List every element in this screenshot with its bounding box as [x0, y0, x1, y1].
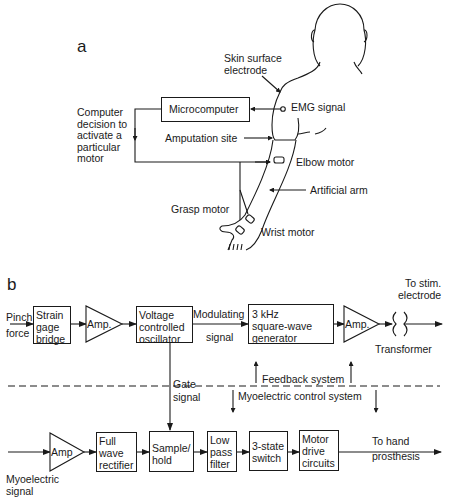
sample-hold-label: Sample/ hold — [152, 442, 191, 466]
amp1-label: Amp. — [87, 318, 112, 330]
gate-signal-label: Gate signal — [173, 378, 200, 404]
wrist-motor-label: Wrist motor — [261, 226, 314, 238]
full-wave-box: Full wave rectifier — [96, 432, 137, 472]
sample-hold-box: Sample/ hold — [149, 431, 194, 472]
strain-gage-box: Strain gage bridge — [33, 306, 71, 344]
square-wave-box: 3 kHz square-wave generator — [248, 304, 334, 344]
transformer-coil-left — [393, 312, 396, 336]
computer-decision-label: Computer decision to activate a particul… — [77, 107, 127, 165]
transformer-label: Transformer — [375, 343, 432, 355]
amp3-label: Amp — [51, 446, 73, 458]
vco-label: Voltage controlled oscillator — [139, 309, 185, 345]
modulating-label: Modulating — [193, 308, 244, 320]
stump-crease — [298, 132, 310, 134]
elbow-motor-symbol — [274, 157, 284, 163]
grasp-motor-symbol — [245, 214, 255, 224]
head-outline — [313, 4, 365, 66]
three-state-box: 3-state switch — [249, 431, 288, 471]
neck-left — [280, 62, 320, 92]
myoelectric-signal-label: Myoelectric signal — [6, 473, 59, 497]
low-pass-label: Low pass filter — [210, 434, 232, 470]
amputation-site-label: Amputation site — [165, 132, 237, 144]
panel-a-label: a — [77, 38, 86, 56]
strain-gage-label: Strain gage bridge — [36, 309, 65, 345]
chest-mark — [315, 128, 326, 134]
wrist-motor-symbol — [235, 225, 245, 235]
motor-drive-box: Motor drive circuits — [299, 430, 339, 471]
microcomputer-box: Microcomputer — [161, 97, 250, 122]
skin-electrode-label: Skin surface electrode — [224, 52, 282, 76]
signal-label: signal — [206, 331, 233, 343]
elbow-motor-label: Elbow motor — [296, 156, 354, 168]
to-hand-label: To hand prosthesis — [372, 434, 420, 464]
hand — [220, 215, 245, 250]
vco-box: Voltage controlled oscillator — [136, 306, 193, 343]
motor-drive-label: Motor drive circuits — [302, 433, 335, 469]
arm-left-edge — [245, 140, 273, 215]
to-stim-label: To stim. electrode — [398, 277, 441, 301]
low-pass-box: Low pass filter — [207, 431, 237, 472]
fingers — [229, 244, 242, 250]
panel-b-label: b — [7, 276, 16, 294]
emg-electrode-icon — [281, 107, 286, 112]
shoulder-stump — [272, 92, 299, 140]
grasp-line-2 — [240, 190, 248, 214]
myoelectric-control-label: Myoelectric control system — [238, 390, 362, 402]
artificial-arm-label: Artificial arm — [310, 184, 368, 196]
full-wave-label: Full wave rectifier — [99, 435, 133, 471]
amp2-label: Amp. — [345, 318, 370, 330]
three-state-label: 3-state switch — [252, 440, 284, 464]
pinch-force-label: Pinch force — [6, 309, 32, 341]
square-wave-label: 3 kHz square-wave generator — [252, 308, 312, 344]
grasp-motor-label: Grasp motor — [171, 203, 229, 215]
electrode-pointer — [262, 76, 280, 92]
emg-signal-label: EMG signal — [291, 101, 345, 113]
neck-right — [354, 62, 362, 74]
feedback-system-label: Feedback system — [262, 373, 344, 385]
microcomputer-label: Microcomputer — [169, 103, 238, 115]
